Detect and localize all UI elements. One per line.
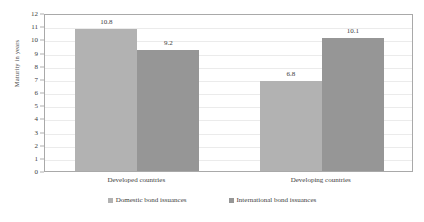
bar xyxy=(260,81,322,171)
y-axis-tick-label: 3 xyxy=(35,129,39,136)
category-labels: Developed countriesDeveloping countries xyxy=(44,176,413,190)
y-axis-tick-label: 12 xyxy=(31,11,38,18)
category-label: Developed countries xyxy=(107,176,165,184)
y-axis-tick-label: 9 xyxy=(35,50,39,57)
y-axis-tick-label: 4 xyxy=(35,116,39,123)
bar xyxy=(137,50,199,171)
legend-item[interactable]: International bond issuances xyxy=(229,197,317,204)
y-axis-tick-label: 6 xyxy=(35,90,39,97)
legend-swatch-icon xyxy=(229,198,234,203)
y-axis-ticks: 1211109876543210 xyxy=(0,14,44,172)
legend-label: International bond issuances xyxy=(237,197,317,204)
bar xyxy=(75,29,137,171)
bar-value-label: 10.8 xyxy=(75,19,137,26)
y-axis-tick-label: 10 xyxy=(31,37,38,44)
y-axis-tick-label: 5 xyxy=(35,103,39,110)
legend-swatch-icon xyxy=(108,198,113,203)
y-axis-tick-label: 0 xyxy=(35,169,39,176)
y-axis-tick-label: 2 xyxy=(35,142,39,149)
chart-legend: Domestic bond issuancesInternational bon… xyxy=(0,197,424,204)
bar-value-label: 6.8 xyxy=(260,71,322,78)
bar-value-label: 10.1 xyxy=(322,28,384,35)
y-axis-tick-label: 8 xyxy=(35,63,39,70)
bar-chart: Maturity in years 1211109876543210 10.89… xyxy=(0,0,424,222)
plot-area: 10.89.26.810.1 xyxy=(44,14,413,172)
y-axis-tick-label: 1 xyxy=(35,155,39,162)
bar-value-label: 9.2 xyxy=(137,40,199,47)
bars-layer: 10.89.26.810.1 xyxy=(45,15,412,171)
y-axis-tick-label: 7 xyxy=(35,76,39,83)
category-label: Developing countries xyxy=(291,176,351,184)
legend-item[interactable]: Domestic bond issuances xyxy=(108,197,187,204)
y-axis-tick-label: 11 xyxy=(31,24,38,31)
legend-label: Domestic bond issuances xyxy=(116,197,187,204)
bar xyxy=(322,38,384,171)
